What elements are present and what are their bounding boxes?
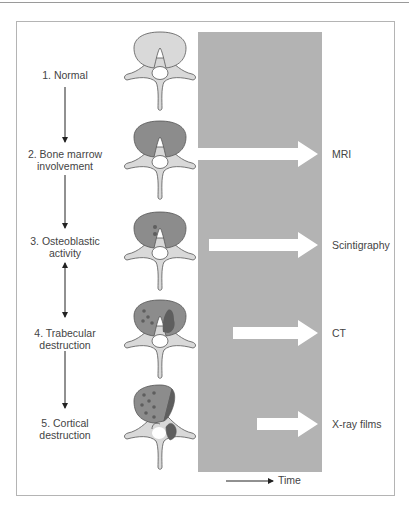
vertebra-cortical-destruction-icon: [124, 385, 195, 469]
mri-detection-arrow: [197, 141, 318, 167]
vertebra-marrow-involvement-icon: [124, 121, 195, 199]
vertebra-trabecular-destruction-icon: [124, 300, 195, 378]
xray-detection-arrow: [257, 411, 318, 437]
vertebra-normal-icon: [124, 32, 195, 110]
vertebra-osteoblastic-icon: [124, 212, 195, 290]
diagram-graphics: [0, 0, 409, 508]
scintigraphy-detection-arrow: [209, 232, 318, 258]
ct-detection-arrow: [233, 320, 318, 346]
